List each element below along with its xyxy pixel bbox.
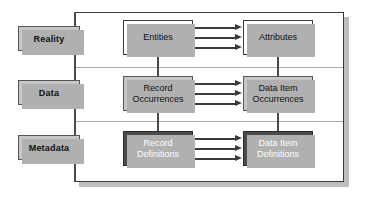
arrow-group-metadata xyxy=(193,133,243,164)
arrow-head-icon xyxy=(235,34,242,40)
arrow-head-icon xyxy=(235,135,242,141)
node-attributes: Attributes xyxy=(243,20,313,55)
vertical-connector-data-item-occurrences-data-item-definitions xyxy=(277,111,279,131)
node-data-item-occurrences-label: Data Item Occurrences xyxy=(252,83,303,105)
side-label-metadata: Metadata xyxy=(18,135,80,160)
arrow-data-1 xyxy=(193,80,243,87)
band-divider-data-metadata xyxy=(75,121,343,122)
arrow-shaft xyxy=(193,158,236,160)
arrow-shaft xyxy=(193,148,236,150)
node-record-occurrences-label: Record Occurrences xyxy=(132,83,183,105)
arrow-reality-1 xyxy=(193,24,243,31)
arrow-head-icon xyxy=(235,44,242,50)
arrow-metadata-3 xyxy=(193,155,243,162)
node-data-item-definitions-label: Data Item Definitions xyxy=(257,138,299,160)
arrow-shaft xyxy=(193,93,236,95)
node-data-item-occurrences: Data Item Occurrences xyxy=(243,76,313,111)
arrow-data-3 xyxy=(193,100,243,107)
arrow-reality-2 xyxy=(193,34,243,41)
vertical-connector-record-occurrences-record-definitions xyxy=(157,111,159,131)
side-label-data: Data xyxy=(18,80,80,105)
arrow-shaft xyxy=(193,27,236,29)
arrow-group-data xyxy=(193,78,243,109)
node-data-item-definitions: Data Item Definitions xyxy=(243,131,313,166)
arrow-reality-3 xyxy=(193,44,243,51)
arrow-head-icon xyxy=(235,145,242,151)
side-label-data-text: Data xyxy=(39,88,59,98)
arrow-head-icon xyxy=(235,155,242,161)
node-entities: Entities xyxy=(123,20,193,55)
arrow-shaft xyxy=(193,47,236,49)
vertical-connector-attributes-data-item-occurrences xyxy=(277,55,279,76)
arrow-metadata-1 xyxy=(193,135,243,142)
node-record-occurrences: Record Occurrences xyxy=(123,76,193,111)
node-record-definitions-label: Record Definitions xyxy=(137,138,179,160)
side-label-reality: Reality xyxy=(18,26,80,51)
arrow-data-2 xyxy=(193,90,243,97)
arrow-group-reality xyxy=(193,22,243,53)
side-label-reality-text: Reality xyxy=(34,34,65,44)
arrow-head-icon xyxy=(235,24,242,30)
node-entities-label: Entities xyxy=(143,32,173,43)
arrow-metadata-2 xyxy=(193,145,243,152)
arrow-shaft xyxy=(193,138,236,140)
band-divider-reality-data xyxy=(75,67,343,68)
node-attributes-label: Attributes xyxy=(259,32,297,43)
arrow-head-icon xyxy=(235,80,242,86)
arrow-shaft xyxy=(193,83,236,85)
arrow-head-icon xyxy=(235,100,242,106)
diagram-root: Reality Data Metadata xyxy=(0,0,368,200)
arrow-shaft xyxy=(193,103,236,105)
node-record-definitions: Record Definitions xyxy=(123,131,193,166)
vertical-connector-entities-record-occurrences xyxy=(157,55,159,76)
arrow-shaft xyxy=(193,37,236,39)
arrow-head-icon xyxy=(235,90,242,96)
side-label-metadata-text: Metadata xyxy=(29,143,70,153)
